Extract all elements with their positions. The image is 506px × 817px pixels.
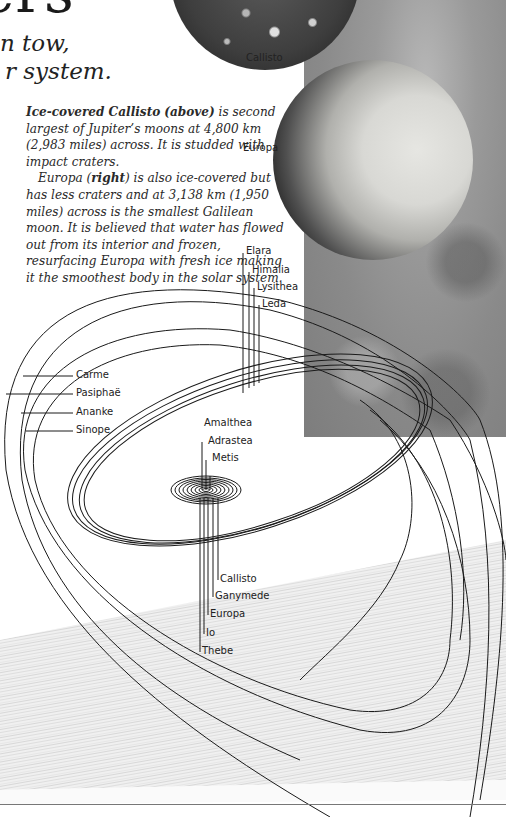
- label-thebe: Thebe: [202, 645, 233, 656]
- label-carme: Carme: [76, 369, 109, 380]
- label-metis: Metis: [212, 452, 239, 463]
- page-bottom-rule: [0, 804, 506, 805]
- label-callisto: Callisto: [220, 573, 257, 584]
- label-pasiphae: Pasiphaë: [76, 387, 121, 398]
- label-ganymede: Ganymede: [215, 590, 270, 601]
- label-europa: Europa: [210, 608, 245, 619]
- label-himalia: Himalia: [252, 264, 290, 275]
- label-leda: Leda: [262, 298, 286, 309]
- label-amalthea: Amalthea: [204, 417, 252, 428]
- label-lysithea: Lysithea: [257, 281, 298, 292]
- leader-lines-retrograde: [6, 376, 73, 431]
- label-io: Io: [206, 627, 215, 638]
- label-elara: Elara: [246, 245, 271, 256]
- label-adrastea: Adrastea: [208, 435, 253, 446]
- label-sinope: Sinope: [76, 424, 110, 435]
- label-ananke: Ananke: [76, 406, 113, 417]
